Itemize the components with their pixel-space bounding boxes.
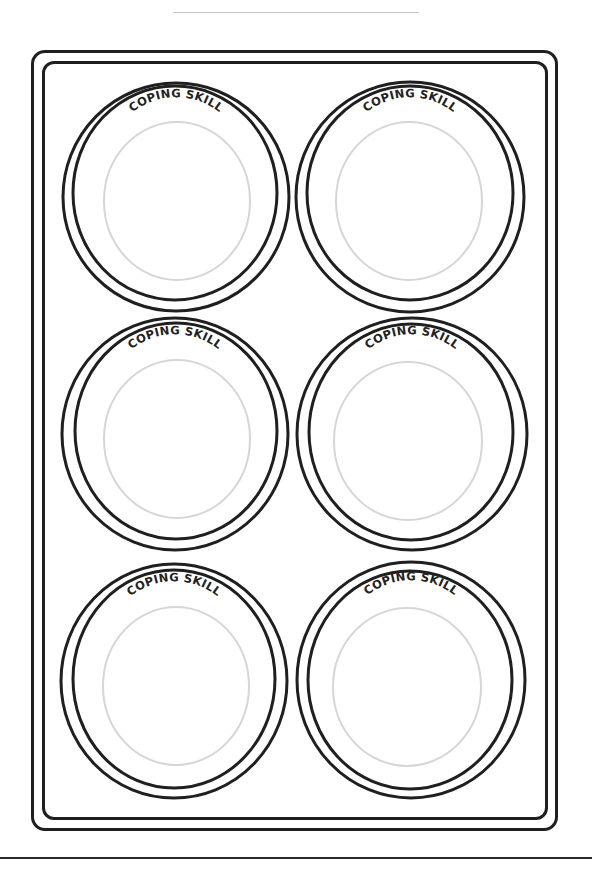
- page-divider: [0, 857, 592, 859]
- plate-label: COPING SKILL: [125, 323, 225, 352]
- plate-writing-area[interactable]: [104, 360, 250, 518]
- plate-outer-ring: [297, 562, 525, 798]
- plate-writing-area[interactable]: [104, 122, 250, 280]
- plate-label: COPING SKILL: [360, 86, 460, 115]
- plate-outer-ring: [62, 318, 288, 550]
- plate-middle-left[interactable]: COPING SKILL: [62, 318, 288, 550]
- plate-top-left[interactable]: COPING SKILL: [63, 83, 289, 311]
- plate-writing-area[interactable]: [103, 607, 249, 765]
- plate-label: COPING SKILL: [362, 323, 462, 352]
- plate-outer-ring: [63, 83, 289, 311]
- plate-writing-area[interactable]: [334, 362, 482, 520]
- plate-label: COPING SKILL: [361, 569, 461, 598]
- plate-bottom-right[interactable]: COPING SKILL: [297, 562, 525, 798]
- plate-writing-area[interactable]: [336, 122, 482, 280]
- plate-bottom-left[interactable]: COPING SKILL: [61, 564, 287, 798]
- plate-middle-right[interactable]: COPING SKILL: [297, 318, 527, 550]
- plate-label: COPING SKILL: [124, 570, 224, 599]
- plate-writing-area[interactable]: [333, 608, 481, 766]
- plate-outer-ring: [61, 564, 287, 798]
- plate-outer-ring: [297, 318, 527, 550]
- plate-top-right[interactable]: COPING SKILL: [296, 82, 524, 312]
- plates-grid: COPING SKILL COPING SKILL COPING SKILL C…: [0, 0, 592, 879]
- plate-outer-ring: [296, 82, 524, 312]
